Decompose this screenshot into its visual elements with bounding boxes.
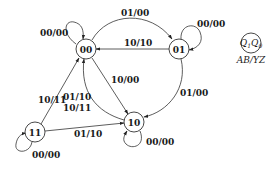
label-00-10: 10/00 [111,75,139,85]
label-00-00: 00/00 [40,28,68,38]
label-00-01: 01/00 [121,8,149,18]
state-01-label: 01 [173,45,186,55]
edge-10-10 [124,131,142,147]
edge-01-10 [144,59,182,117]
state-diagram: 00 01 10 11 00/00 01/00 10/10 00/00 10/0… [0,0,274,173]
legend-io-label: AB/YZ [236,55,266,65]
label-01-00: 10/10 [124,38,152,48]
state-00-label: 00 [80,45,93,55]
state-01: 01 [169,39,189,59]
label-01-10: 01/00 [180,88,208,98]
legend: Q1Q0 AB/YZ [236,33,266,65]
state-11-label: 11 [29,128,42,138]
label-11-10: 01/10 [74,129,102,139]
state-10-label: 10 [128,118,141,128]
state-11: 11 [25,122,45,142]
label-11-11: 00/00 [32,150,60,160]
state-00: 00 [76,39,96,59]
label-01-01: 00/00 [197,19,225,29]
state-10: 10 [124,112,144,132]
edge-00-01 [92,18,172,40]
label-10-00-line1: 01/10 [63,92,91,102]
edge-11-00 [41,58,79,124]
label-10-10: 00/00 [146,137,174,147]
label-10-00-line2: 10/11 [63,103,91,113]
